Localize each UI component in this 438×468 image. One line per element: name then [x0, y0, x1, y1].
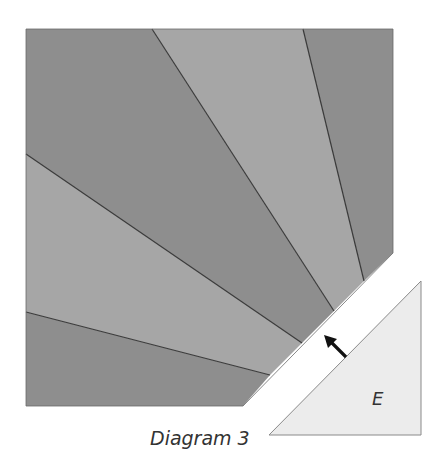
- diagram-caption: Diagram 3: [150, 427, 250, 449]
- piece-label: E: [372, 388, 384, 409]
- quilt-diagram: E Diagram 3: [0, 0, 438, 468]
- arrow-icon: [324, 335, 346, 357]
